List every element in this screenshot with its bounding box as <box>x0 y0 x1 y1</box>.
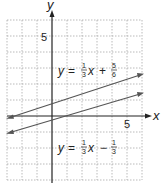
coordinate-plane-figure: y x 5 5 y = 1 3 x + 5 6 y = 1 3 x − 1 <box>0 0 163 183</box>
svg-text:1: 1 <box>82 62 86 69</box>
svg-text:6: 6 <box>112 71 116 78</box>
x-axis-label: x <box>152 108 160 123</box>
svg-text:5: 5 <box>112 62 116 69</box>
svg-text:x: x <box>87 64 95 78</box>
svg-text:3: 3 <box>82 71 86 78</box>
svg-text:x: x <box>87 141 95 155</box>
equation-lower: y = 1 3 x − 1 3 <box>57 139 117 155</box>
graph-svg: y x 5 5 y = 1 3 x + 5 6 y = 1 3 x − 1 <box>0 0 163 183</box>
svg-text:=: = <box>68 64 75 78</box>
y-tick-5: 5 <box>41 31 47 43</box>
svg-text:=: = <box>68 141 75 155</box>
svg-text:1: 1 <box>82 139 86 146</box>
svg-text:+: + <box>99 64 106 78</box>
x-axis-arrow-icon <box>145 114 152 119</box>
svg-text:y: y <box>57 64 65 78</box>
svg-text:y: y <box>57 141 65 155</box>
svg-text:1: 1 <box>112 139 116 146</box>
svg-text:3: 3 <box>82 148 86 155</box>
line-lower-right-arrow-icon <box>137 92 144 97</box>
line-upper-right-arrow-icon <box>137 73 144 78</box>
x-tick-5: 5 <box>124 118 130 130</box>
svg-text:3: 3 <box>112 148 116 155</box>
equation-upper: y = 1 3 x + 5 6 <box>57 62 117 78</box>
y-axis-label: y <box>46 0 55 12</box>
svg-text:−: − <box>100 141 107 155</box>
line-upper <box>10 75 140 118</box>
